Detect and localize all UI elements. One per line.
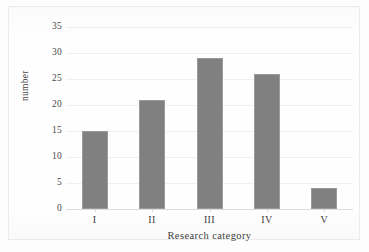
chart-page: 05101520253035 number IIIIIIIVV Research… bbox=[0, 0, 369, 252]
x-axis-tick-mark bbox=[95, 209, 96, 212]
x-axis-tick-label: IV bbox=[247, 213, 287, 226]
x-axis-tick-label: V bbox=[304, 213, 344, 226]
x-axis-tick-label: I bbox=[75, 213, 115, 226]
y-axis-title: number bbox=[20, 70, 30, 101]
x-axis-tick-mark bbox=[152, 209, 153, 212]
bar bbox=[82, 131, 108, 209]
bar bbox=[254, 74, 280, 209]
y-axis-tick-labels: 05101520253035 bbox=[36, 27, 62, 209]
y-axis-tick-label: 10 bbox=[40, 152, 62, 162]
chart-frame: 05101520253035 number IIIIIIIVV Research… bbox=[8, 6, 360, 240]
y-axis-tick-label: 35 bbox=[40, 22, 62, 32]
x-axis-tick-label: II bbox=[132, 213, 172, 226]
bar bbox=[197, 58, 223, 209]
y-axis-tick-label: 20 bbox=[40, 100, 62, 110]
y-axis-tick-label: 15 bbox=[40, 126, 62, 136]
x-axis-tick-mark bbox=[324, 209, 325, 212]
x-axis-tick-labels: IIIIIIIVV bbox=[66, 213, 353, 227]
x-axis-tick-label: III bbox=[190, 213, 230, 226]
y-axis-tick-label: 25 bbox=[40, 74, 62, 84]
bar-series bbox=[66, 27, 353, 209]
bar bbox=[139, 100, 165, 209]
y-axis-tick-label: 0 bbox=[40, 204, 62, 214]
y-axis-tick-label: 30 bbox=[40, 48, 62, 58]
x-axis-title: Research category bbox=[66, 230, 353, 241]
x-axis-tick-mark bbox=[267, 209, 268, 212]
bar bbox=[311, 188, 337, 209]
x-axis-tick-mark bbox=[210, 209, 211, 212]
y-axis-tick-label: 5 bbox=[40, 178, 62, 188]
